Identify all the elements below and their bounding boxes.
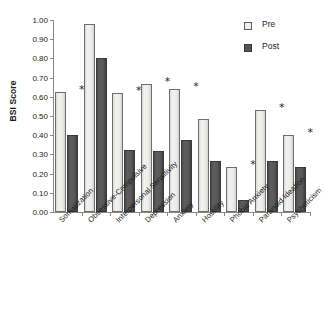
y-axis-tick-label: 0.50 (8, 112, 53, 121)
bar-group: * (169, 20, 198, 212)
y-axis-tick-mark (50, 116, 54, 117)
y-axis-tick-mark (50, 20, 54, 21)
y-axis-tick-label: 0.10 (8, 188, 53, 197)
legend-swatch-post-icon (244, 44, 252, 52)
y-axis-tick-mark (50, 135, 54, 136)
bar-pre (84, 24, 95, 212)
y-axis-tick-mark (50, 78, 54, 79)
y-axis-tick-label: 0.80 (8, 54, 53, 63)
significance-asterisk: * (307, 129, 313, 137)
y-axis-tick-mark (50, 212, 54, 213)
bsi-score-bar-chart: BSI Score 1.000.900.800.700.600.500.400.… (0, 0, 324, 312)
bar-group (198, 20, 227, 212)
y-axis-tick-label: 0.90 (8, 35, 53, 44)
y-axis-tick-label: 0.30 (8, 150, 53, 159)
legend-label-post: Post (262, 41, 279, 51)
bar-pre (198, 119, 209, 212)
y-axis-tick-mark (50, 174, 54, 175)
y-axis-tick-mark (50, 58, 54, 59)
y-axis-tick-label: 1.00 (8, 16, 53, 25)
y-axis-tick-label: 0.70 (8, 73, 53, 82)
y-axis-tick-mark (50, 193, 54, 194)
bar-post (96, 58, 107, 212)
legend-label-pre: Pre (262, 19, 275, 29)
bar-pre (226, 167, 237, 212)
bar-group: * (55, 20, 84, 212)
y-axis-tick-label: 0.20 (8, 169, 53, 178)
bar-pre (55, 92, 66, 212)
bar-group (84, 20, 113, 212)
y-axis-tick-mark (50, 39, 54, 40)
legend-swatch-pre-icon (244, 22, 252, 30)
y-axis-tick-label: 0.40 (8, 131, 53, 140)
y-axis-tick-mark (50, 97, 54, 98)
x-axis-label-container: SomatizationObsessive-CompulsiveInterper… (0, 216, 324, 312)
y-axis-tick-label: 0.60 (8, 92, 53, 101)
y-axis-tick-mark (50, 154, 54, 155)
